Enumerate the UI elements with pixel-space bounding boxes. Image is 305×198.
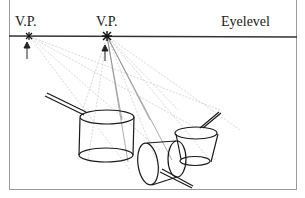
- perspective-drawing: [0, 0, 305, 198]
- small-saucepan: [175, 112, 221, 166]
- vp-marker-center: [102, 31, 112, 41]
- horizon-line: [9, 36, 297, 37]
- arrow-icon: [24, 42, 108, 61]
